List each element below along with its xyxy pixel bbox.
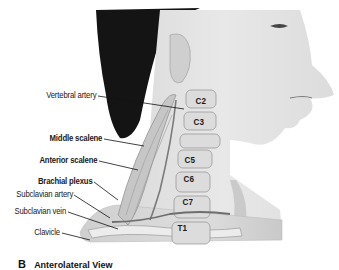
caption-letter: B [18, 258, 26, 270]
vertebra-label-c2: C2 [196, 96, 206, 106]
figure-caption: B Anterolateral View [18, 258, 113, 270]
vertebra-label-c3: C3 [194, 117, 204, 127]
label-brachial-plexus: Brachial plexus [38, 176, 93, 186]
label-subclavian-artery: Subclavian artery [16, 189, 73, 199]
label-anterior-scalene: Anterior scalene [39, 155, 97, 165]
vertebra-label-c6: C6 [184, 174, 194, 184]
vertebra-label-t1: T1 [178, 223, 187, 233]
label-subclavian-vein: Subclavian vein [14, 206, 66, 216]
label-middle-scalene: Middle scalene [49, 133, 102, 143]
vertebra-label-c5: C5 [185, 155, 195, 165]
label-clavicle: Clavicle [34, 227, 60, 237]
label-vertebral-artery: Vertebral artery [46, 90, 96, 100]
caption-text: Anterolateral View [34, 260, 112, 270]
vertebra-label-c7: C7 [183, 197, 193, 207]
